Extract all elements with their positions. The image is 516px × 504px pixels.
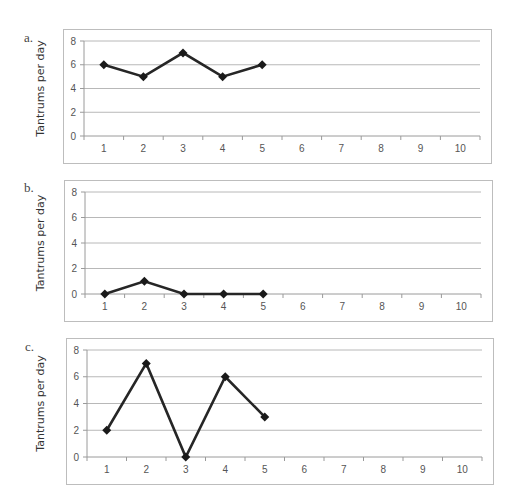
x-tick-label: 9 — [420, 464, 426, 475]
x-tick-label: 6 — [301, 464, 307, 475]
y-tick-label: 4 — [73, 398, 79, 409]
y-tick-label: 0 — [73, 452, 79, 463]
y-tick-label: 6 — [73, 371, 79, 382]
x-tick-label: 8 — [380, 464, 386, 475]
x-tick-label: 3 — [183, 464, 189, 475]
x-tick-label: 10 — [457, 464, 469, 475]
y-axis-title: Tantrums per day — [34, 355, 47, 453]
x-tick-label: 2 — [143, 464, 149, 475]
diamond-marker — [181, 453, 190, 462]
y-tick-label: 8 — [73, 345, 79, 356]
y-tick-label: 2 — [73, 425, 79, 436]
x-tick-label: 1 — [104, 464, 110, 475]
line-chart-c: 0246812345678910Tantrums per day — [0, 0, 516, 504]
x-tick-label: 5 — [262, 464, 268, 475]
x-tick-label: 7 — [341, 464, 347, 475]
data-line — [107, 363, 265, 457]
x-tick-label: 4 — [222, 464, 228, 475]
